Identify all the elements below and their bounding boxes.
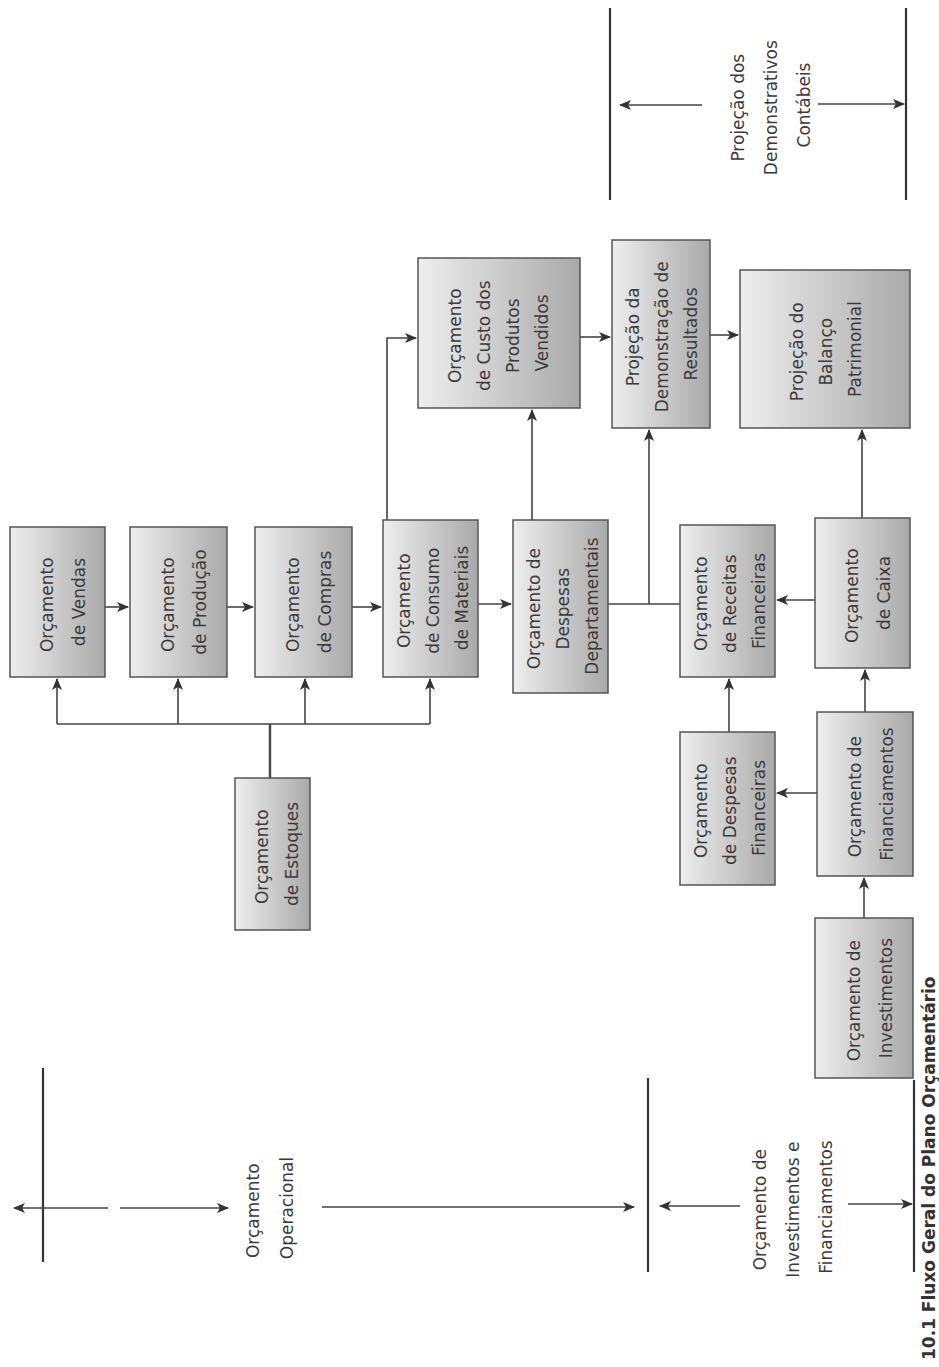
box-orcamento-producao: Orçamento de Produção <box>130 527 227 677</box>
box-label-line: de Estoques <box>282 802 302 906</box>
box-label-line: de Caixa <box>874 556 894 630</box>
box-label-line: Departamentais <box>582 537 602 674</box>
svg-text:Orçamento de Receitas: Orçamento de Receitas Financeiras <box>691 549 769 653</box>
box-label-line: de Materiais <box>452 546 472 651</box>
svg-text:Projeção do Balanço: Projeção do Balanço Patrimonial <box>787 297 865 401</box>
svg-text:Orçamento de Consumo: Orçamento de Consumo de Materiais <box>394 542 472 654</box>
box-orcamento-despesas-departamentais: Orçamento de Despesas Departamentais <box>513 520 608 693</box>
box-label-line: Patrimonial <box>845 301 865 397</box>
box-label-line: Vendidos <box>532 294 552 371</box>
box-orcamento-financiamentos: Orçamento de Financiamentos <box>817 712 913 876</box>
section-label-investimentos-financiamentos: Orçamento de Investimentos e Financiamen… <box>750 1136 836 1278</box>
section-label-demonstrativos: Projeção dos Demonstrativos Contábeis <box>728 35 814 175</box>
section-label-line: Projeção dos <box>728 54 748 162</box>
box-label-line: Orçamento <box>394 553 414 648</box>
box-orcamento-estoques: Orçamento de Estoques <box>235 778 310 930</box>
section-label-line: Demonstrativos <box>761 40 781 175</box>
section-label-line: Financiamentos <box>816 1140 836 1274</box>
box-orcamento-custo-produtos-vendidos: Orçamento de Custo dos Produtos Vendidos <box>418 258 580 408</box>
section-label-operacional: Orçamento Operacional <box>243 1157 297 1259</box>
svg-text:Orçamento Operacional: Orçamento Operacional <box>243 1157 297 1259</box>
box-label-line: de Despesas <box>720 756 740 865</box>
box-orcamento-despesas-financeiras: Orçamento de Despesas Financeiras <box>680 732 775 885</box>
box-orcamento-caixa: Orçamento de Caixa <box>815 518 910 668</box>
box-label-line: Orçamento <box>445 288 465 383</box>
box-label-line: Financiamentos <box>877 727 897 861</box>
box-label-line: Orçamento de <box>844 940 864 1061</box>
box-label-line: Resultados <box>681 287 701 380</box>
box-orcamento-receitas-financeiras: Orçamento de Receitas Financeiras <box>680 525 775 677</box>
budget-flow-diagram: Orçamento Operacional Orçamento de Inves… <box>0 0 939 1367</box>
box-orcamento-investimentos: Orçamento de Investimentos <box>815 918 913 1078</box>
box-orcamento-vendas: Orçamento de Vendas <box>10 527 105 677</box>
box-projecao-balanco-patrimonial: Projeção do Balanço Patrimonial <box>740 270 910 428</box>
section-label-line: Contábeis <box>794 62 814 147</box>
svg-text:Orçamento de Investiment: Orçamento de Investimentos e Financiamen… <box>750 1136 836 1278</box>
box-label-line: Produtos <box>503 298 523 373</box>
svg-text:Projeção dos Demonstrati: Projeção dos Demonstrativos Contábeis <box>728 35 814 175</box>
section-label-line: Investimentos e <box>783 1142 803 1278</box>
box-label-line: Projeção do <box>787 302 807 401</box>
box-projecao-demonstracao-resultados: Projeção da Demonstração de Resultados <box>612 240 710 428</box>
box-label-line: Orçamento <box>842 548 862 643</box>
box-label-line: Financeiras <box>749 553 769 649</box>
box-label-line: Balanço <box>816 318 836 386</box>
figure-caption: 10.1 Fluxo Geral do Plano Orçamentário <box>919 977 939 1361</box>
box-label-line: Orçamento <box>283 557 303 652</box>
box-label-line: Financeiras <box>749 760 769 856</box>
box-label-line: Orçamento <box>691 556 711 651</box>
box-label-line: de Vendas <box>69 558 89 646</box>
box-label-line: Orçamento <box>37 557 57 652</box>
box-label-line: Orçamento <box>158 557 178 652</box>
box-label-line: de Consumo <box>423 548 443 654</box>
box-label-line: de Custo dos <box>474 280 494 391</box>
section-label-line: Orçamento de <box>750 1149 770 1270</box>
box-label-line: Demonstração de <box>652 261 672 412</box>
box-label-line: Projeção da <box>623 287 643 386</box>
box-label-line: Orçamento de <box>845 736 865 857</box>
svg-text:Orçamento de Despesas: Orçamento de Despesas Financeiras <box>691 751 769 865</box>
box-label-line: Despesas <box>553 568 573 650</box>
box-orcamento-consumo-materiais: Orçamento de Consumo de Materiais <box>383 520 478 677</box>
section-label-line: Orçamento <box>243 1163 263 1258</box>
box-label-line: Orçamento <box>691 763 711 858</box>
box-label-line: Orçamento <box>252 809 272 904</box>
box-label-line: Investimentos <box>876 938 896 1058</box>
box-label-line: de Receitas <box>720 554 740 653</box>
box-orcamento-compras: Orçamento de Compras <box>255 527 352 677</box>
box-label-line: Orçamento de <box>524 548 544 669</box>
section-label-line: Operacional <box>277 1157 297 1259</box>
box-label-line: de Produção <box>190 549 210 654</box>
box-label-line: de Compras <box>315 551 335 654</box>
